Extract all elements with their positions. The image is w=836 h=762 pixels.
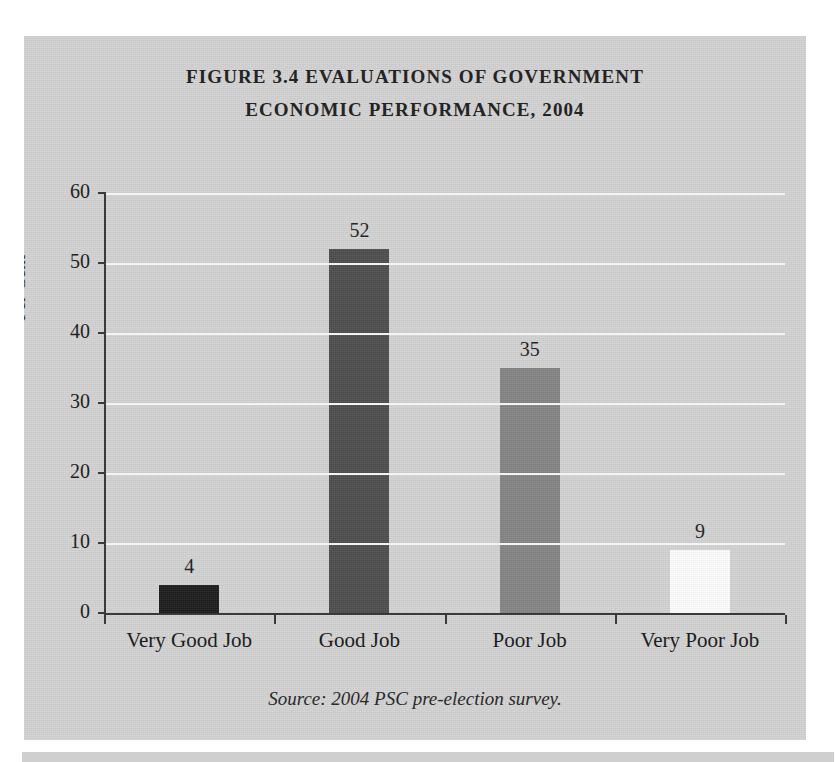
x-axis-tick	[785, 615, 787, 624]
y-axis-tick-label: 40	[70, 320, 90, 343]
x-axis-category-label: Good Job	[274, 628, 444, 653]
y-axis-tick-label: 0	[80, 600, 90, 623]
gridline	[104, 543, 785, 545]
y-axis-tick-label: 30	[70, 390, 90, 413]
y-axis-tick-label: 10	[70, 530, 90, 553]
y-axis-title: Per Cent	[24, 255, 30, 321]
gridline	[104, 473, 785, 475]
figure-panel: FIGURE 3.4 EVALUATIONS OF GOVERNMENT ECO…	[24, 36, 806, 740]
source-note: Source: 2004 PSC pre-election survey.	[24, 688, 806, 710]
x-axis-category-label: Poor Job	[445, 628, 615, 653]
y-axis-tick-label: 20	[70, 460, 90, 483]
x-axis-category-label: Very Poor Job	[615, 628, 785, 653]
x-axis-line	[104, 613, 785, 615]
gridline	[104, 193, 785, 195]
x-axis-tick	[615, 615, 617, 624]
y-axis-tick-label: 60	[70, 180, 90, 203]
figure-title-line-1: FIGURE 3.4 EVALUATIONS OF GOVERNMENT	[24, 60, 806, 93]
x-axis-tick	[445, 615, 447, 624]
y-axis-tick-label: 50	[70, 250, 90, 273]
page-bottom-strip	[22, 752, 834, 762]
x-axis-tick	[104, 615, 106, 624]
y-axis-line	[104, 193, 106, 614]
plot-area	[104, 193, 785, 613]
gridline	[104, 403, 785, 405]
figure-title-line-2: ECONOMIC PERFORMANCE, 2004	[24, 93, 806, 126]
figure-title: FIGURE 3.4 EVALUATIONS OF GOVERNMENT ECO…	[24, 60, 806, 126]
x-axis-category-label: Very Good Job	[104, 628, 274, 653]
gridline	[104, 333, 785, 335]
x-axis-tick	[274, 615, 276, 624]
gridline	[104, 263, 785, 265]
